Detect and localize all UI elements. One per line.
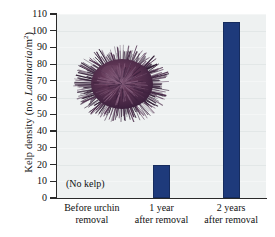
y-axis-tick-label: 0	[7, 193, 47, 203]
y-axis-tick	[50, 147, 57, 148]
kelp-density-bar-chart: Kelp density (no. Laminaria/m2) 01020304…	[0, 0, 275, 237]
x-axis-label-line: 2 years	[183, 202, 275, 214]
y-axis-tick	[50, 164, 57, 165]
y-axis-tick	[50, 130, 57, 131]
y-axis-tick	[50, 97, 57, 98]
gridline	[57, 14, 266, 15]
y-axis-tick-label: 50	[7, 109, 47, 119]
y-axis-tick-label: 110	[7, 9, 47, 19]
y-axis-tick-label: 20	[7, 160, 47, 170]
y-axis-tick-label: 30	[7, 143, 47, 153]
sea-urchin-icon	[72, 42, 172, 122]
y-axis-title-exponent: 2	[22, 35, 30, 39]
y-axis-tick	[50, 114, 57, 115]
y-axis-tick-label: 70	[7, 76, 47, 86]
y-axis-tick-label: 80	[7, 59, 47, 69]
y-axis-tick	[50, 197, 57, 198]
y-axis-tick	[50, 13, 57, 14]
y-axis-title-species: Laminaria	[23, 50, 34, 95]
y-axis-tick-label: 10	[7, 176, 47, 186]
sea-urchin-photo	[72, 42, 172, 122]
y-axis-line	[56, 13, 57, 199]
y-axis-tick-label: 90	[7, 42, 47, 52]
y-axis-tick	[50, 80, 57, 81]
y-axis-tick	[50, 47, 57, 48]
y-axis-tick	[50, 181, 57, 182]
y-axis-tick	[50, 30, 57, 31]
no-kelp-annotation: (No kelp)	[66, 178, 105, 189]
x-axis-label-line: after removal	[183, 214, 275, 226]
bar-2	[153, 165, 170, 198]
y-axis-tick-label: 100	[7, 26, 47, 36]
y-axis-tick-label: 40	[7, 126, 47, 136]
y-axis-tick	[50, 64, 57, 65]
bar-3	[223, 22, 240, 198]
y-axis-tick-label: 60	[7, 93, 47, 103]
x-axis-label-3: 2 yearsafter removal	[183, 202, 275, 225]
